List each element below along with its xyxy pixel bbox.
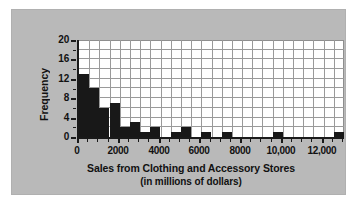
y-axis-tick-label: 0 (47, 132, 69, 142)
x-axis-tick-minor (291, 139, 292, 142)
vertical-gridline (252, 40, 253, 137)
vertical-gridline (242, 40, 243, 137)
x-axis-tick-minor (179, 139, 180, 142)
x-axis-tick-minor (260, 139, 261, 142)
horizontal-gridline (79, 68, 344, 69)
vertical-gridline (262, 40, 263, 137)
vertical-gridline (273, 40, 274, 137)
vertical-gridline (303, 40, 304, 137)
plot-frame-right (343, 40, 344, 137)
x-axis-tick-major (159, 139, 161, 143)
y-axis-tick-minor (73, 127, 76, 128)
x-axis-tick-label: 12,000 (300, 145, 344, 156)
histogram-bar (150, 127, 160, 137)
x-axis-tick-minor (271, 139, 272, 142)
histogram-bar (171, 132, 181, 137)
x-axis-tick-label: 2000 (96, 145, 140, 156)
vertical-gridline (283, 40, 284, 137)
vertical-gridline (181, 40, 182, 137)
vertical-gridline (313, 40, 314, 137)
histogram-bar (273, 132, 283, 137)
y-axis-tick-minor (73, 108, 76, 109)
horizontal-gridline (79, 49, 344, 50)
x-axis-tick-minor (250, 139, 251, 142)
plot-area (77, 40, 344, 139)
x-axis-tick-major (199, 139, 201, 143)
histogram-bar (201, 132, 211, 137)
histogram-bar (89, 88, 99, 137)
y-axis-tick-major (71, 118, 76, 120)
chart-panel: Frequency 048121620 0200040006000800010,… (11, 9, 346, 195)
x-axis-tick-minor (189, 139, 190, 142)
x-axis-tick-major (240, 139, 242, 143)
x-axis-tick-major (281, 139, 283, 143)
vertical-gridline (212, 40, 213, 137)
vertical-gridline (334, 40, 335, 137)
x-axis-tick-minor (169, 139, 170, 142)
x-axis-tick-minor (342, 139, 343, 142)
vertical-gridline (201, 40, 202, 137)
x-axis-tick-label: 6000 (177, 145, 221, 156)
y-axis-tick-major (71, 40, 76, 42)
x-axis-tick-minor (97, 139, 98, 142)
x-axis-tick-minor (138, 139, 139, 142)
x-axis-tick-minor (210, 139, 211, 142)
y-axis-tick-label: 4 (47, 113, 69, 123)
x-axis-title: Sales from Clothing and Accessory Stores… (31, 162, 351, 188)
vertical-gridline (140, 40, 141, 137)
y-axis-tick-major (71, 137, 76, 139)
y-axis-tick-major (71, 79, 76, 81)
vertical-gridline (293, 40, 294, 137)
x-axis-tick-minor (87, 139, 88, 142)
x-axis-tick-label: 0 (55, 145, 99, 156)
vertical-gridline (120, 40, 121, 137)
y-axis-tick-label: 16 (47, 54, 69, 64)
histogram-bar (181, 127, 191, 137)
x-axis-tick-minor (311, 139, 312, 142)
y-axis-tick-major (71, 59, 76, 61)
vertical-gridline (232, 40, 233, 137)
vertical-gridline (171, 40, 172, 137)
y-axis-tick-label: 8 (47, 93, 69, 103)
y-axis-tick-major (71, 98, 76, 100)
x-axis-tick-minor (220, 139, 221, 142)
histogram-bar (140, 132, 150, 137)
x-axis-tick-minor (332, 139, 333, 142)
vertical-gridline (150, 40, 151, 137)
y-axis-tick-minor (73, 50, 76, 51)
x-axis-tick-label: 10,000 (259, 145, 303, 156)
x-axis-title-line1: Sales from Clothing and Accessory Stores (87, 162, 295, 174)
histogram-bar (110, 103, 120, 137)
vertical-gridline (191, 40, 192, 137)
y-axis-tick-minor (73, 89, 76, 90)
histogram-bar (120, 127, 130, 137)
x-axis-tick-minor (301, 139, 302, 142)
histogram-bar (334, 132, 344, 137)
vertical-gridline (161, 40, 162, 137)
x-axis-tick-label: 4000 (137, 145, 181, 156)
horizontal-gridline (79, 87, 344, 88)
vertical-gridline (222, 40, 223, 137)
horizontal-gridline (79, 78, 344, 79)
vertical-gridline (324, 40, 325, 137)
x-axis-tick-minor (148, 139, 149, 142)
x-axis-tick-minor (230, 139, 231, 142)
x-axis-tick-minor (108, 139, 109, 142)
y-axis-tick-label: 20 (47, 35, 69, 45)
x-axis-title-line2: (in millions of dollars) (31, 175, 351, 188)
x-axis-tick-minor (128, 139, 129, 142)
horizontal-gridline (79, 97, 344, 98)
histogram-bar (99, 108, 109, 137)
y-axis-tick-label: 12 (47, 74, 69, 84)
histogram-bar (130, 122, 140, 137)
y-axis-tick-minor (73, 69, 76, 70)
horizontal-gridline (79, 58, 344, 59)
histogram-bar (222, 132, 232, 137)
x-axis-tick-label: 8000 (218, 145, 262, 156)
histogram-bar (79, 74, 89, 137)
x-axis-tick-major (322, 139, 324, 143)
x-axis-tick-major (77, 139, 79, 143)
x-axis-tick-major (118, 139, 120, 143)
chart-figure: Frequency 048121620 0200040006000800010,… (0, 0, 357, 204)
